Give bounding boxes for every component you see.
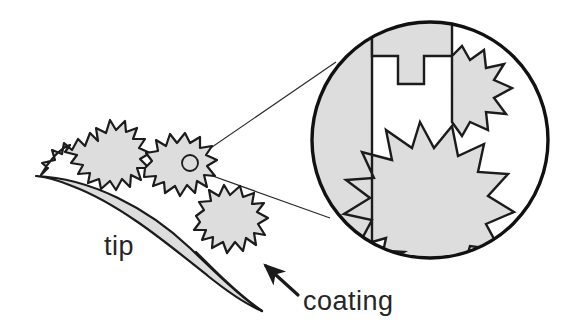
tip-lower-tail <box>196 252 262 311</box>
fractal-lobe-lower-right <box>194 185 268 253</box>
label-coating: coating <box>303 286 394 317</box>
figure-root: tip coating <box>0 0 570 330</box>
magnifier-inset <box>300 0 552 330</box>
label-tip: tip <box>104 231 134 262</box>
coating-arrow <box>266 266 298 295</box>
fractal-lobe-middle <box>144 133 217 196</box>
figure-canvas <box>0 0 570 330</box>
tip-assembly <box>36 120 268 311</box>
